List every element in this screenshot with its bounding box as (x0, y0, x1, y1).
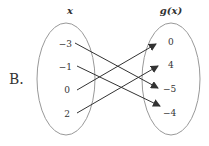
range-value: −5 (163, 84, 177, 94)
domain-value: −1 (59, 62, 72, 72)
range-value: 0 (168, 37, 174, 47)
domain-value: 0 (64, 85, 70, 95)
mapping-diagram: x g(x) B. −3 −1 0 2 0 4 −5 −4 (0, 0, 209, 146)
option-label: B. (9, 71, 24, 87)
domain-value: 2 (64, 109, 70, 119)
range-header: g(x) (160, 5, 183, 16)
domain-value: −3 (59, 39, 73, 49)
range-value: 4 (168, 60, 174, 70)
range-value: −4 (163, 108, 177, 118)
domain-header: x (66, 5, 74, 16)
